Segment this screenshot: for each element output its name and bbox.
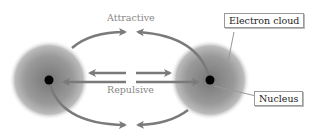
attractive-label: Attractive [107, 12, 155, 23]
attractive-arrow-top-left [72, 32, 125, 48]
attractive-arrow-bottom-right [138, 110, 188, 125]
electron-cloud-label: Electron cloud [224, 13, 304, 28]
right-nucleus [206, 76, 215, 85]
repulsive-label: Repulsive [107, 84, 154, 95]
nucleus-label: Nucleus [254, 91, 303, 106]
left-nucleus [45, 76, 54, 85]
